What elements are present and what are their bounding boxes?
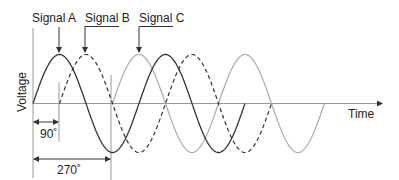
signal-b-pointer xyxy=(85,27,119,53)
phase-270-label: 270˚ xyxy=(57,163,81,177)
signal-b-label: Signal B xyxy=(85,11,130,25)
signal-c-label: Signal C xyxy=(139,11,185,25)
signal-c-pointer xyxy=(139,27,173,53)
phase-diagram: Signal A Signal B Signal C Time Voltage … xyxy=(0,0,399,180)
x-axis-label: Time xyxy=(348,107,375,121)
signal-a-label: Signal A xyxy=(32,11,76,25)
phase-90-label: 90˚ xyxy=(40,127,57,141)
y-axis-label: Voltage xyxy=(15,72,29,112)
